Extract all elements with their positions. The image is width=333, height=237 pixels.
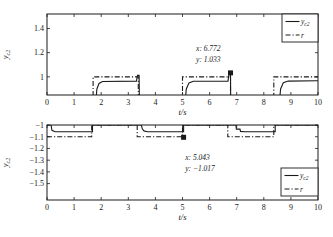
x-tick-label: 2: [99, 203, 103, 212]
x-axis-label: t/s: [178, 107, 187, 117]
x-axis-label: t/s: [178, 212, 187, 222]
datatip-text: y: 1.033: [195, 55, 221, 64]
x-tick-label: 7: [235, 203, 239, 212]
x-tick-label: 9: [289, 203, 293, 212]
y-tick-label: 1: [40, 73, 44, 82]
x-tick-label: 7: [235, 98, 239, 107]
y-tick-label: 1.4: [34, 24, 44, 33]
y-tick-label: 1.2: [34, 48, 44, 57]
y-tick-label: −1.4: [29, 168, 44, 177]
x-tick-label: 0: [45, 98, 49, 107]
legend-box: [282, 14, 318, 42]
top-chart: 01234567891011.21.4t/syc2yc2rx: 6.772y: …: [0, 0, 333, 118]
x-tick-label: 10: [314, 203, 322, 212]
x-tick-label: 6: [208, 203, 212, 212]
y-tick-label: −1.2: [29, 144, 44, 153]
x-tick-label: 4: [153, 203, 157, 212]
x-tick-label: 3: [126, 98, 130, 107]
datatip-text: x: 6.772: [195, 44, 221, 53]
bottom-chart: 012345678910−1−1.1−1.2−1.3−1.4−1.5t/syc2…: [0, 118, 333, 237]
datatip-marker: [228, 70, 233, 75]
x-tick-label: 8: [262, 203, 266, 212]
x-tick-label: 2: [99, 98, 103, 107]
x-tick-label: 1: [72, 203, 76, 212]
x-tick-label: 5: [181, 98, 185, 107]
y-tick-label: −1: [35, 121, 44, 130]
legend-label: r: [301, 31, 304, 40]
y-tick-label: −1.3: [29, 156, 44, 165]
y-axis-label: yc2: [0, 50, 11, 60]
x-tick-label: 8: [262, 98, 266, 107]
datatip-text: x: 5.043: [184, 153, 210, 162]
x-tick-label: 3: [126, 203, 130, 212]
x-tick-label: 9: [289, 98, 293, 107]
x-tick-label: 1: [72, 98, 76, 107]
datatip-marker: [181, 135, 186, 140]
legend-label: r: [300, 185, 303, 194]
y-axis-label: yc2: [0, 158, 11, 168]
x-tick-label: 10: [314, 98, 322, 107]
x-tick-label: 6: [208, 98, 212, 107]
y-tick-label: −1.5: [29, 179, 44, 188]
x-tick-label: 5: [181, 203, 185, 212]
datatip-text: y: −1.017: [184, 164, 215, 173]
plot-svg: 01234567891011.21.4t/syc2yc2rx: 6.772y: …: [0, 0, 333, 118]
x-tick-label: 0: [45, 203, 49, 212]
x-tick-label: 4: [153, 98, 157, 107]
plot-svg: 012345678910−1−1.1−1.2−1.3−1.4−1.5t/syc2…: [0, 118, 333, 237]
figure: 01234567891011.21.4t/syc2yc2rx: 6.772y: …: [0, 0, 333, 237]
y-tick-label: −1.1: [29, 133, 44, 142]
